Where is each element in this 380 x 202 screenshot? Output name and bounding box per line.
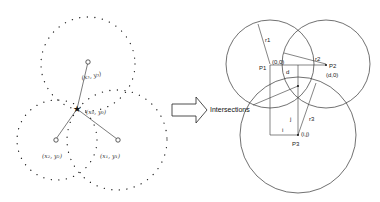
intersections-label: Intersections [210,106,250,113]
anchor-3-marker [86,60,90,64]
anchor-1-label: (x₁, y₁) [100,152,121,160]
label-p1-coord: (0,0) [272,59,284,65]
offset-i-j [270,65,298,135]
radius-r1 [258,24,270,64]
label-r2: r2 [315,56,321,62]
right-diagram: r1 r2 r3 P1 (0,0) P2 (d,0) P3 (i,j) d i … [210,20,370,193]
label-i: i [282,127,283,133]
label-j: j [289,116,291,122]
estimate-star-icon: ★ [73,104,81,114]
label-r3: r3 [309,116,315,122]
label-d: d [286,69,289,75]
vector-to-anchor-3 [77,62,88,109]
anchor-2-label: (x₂, y₂) [42,152,63,160]
anchor-2-marker [54,138,58,142]
label-p1: P1 [259,65,267,71]
trilateration-figure: ★ (x₃, y₃) (x₂, y₂) (x₁, y₁) (x₀, y₀) r1… [0,0,380,202]
label-p2: P2 [329,63,337,69]
transition-arrow [172,97,207,123]
intersection-point [297,85,299,87]
label-r1: r1 [265,37,271,43]
label-p3-coord: (i,j) [301,131,309,137]
label-p3: P3 [292,141,300,147]
label-p2-coord: (d,0) [326,72,338,78]
arrow-icon [172,97,207,123]
anchor-3-label: (x₃, y₃) [81,70,103,82]
p2-point [325,64,327,66]
left-diagram: ★ (x₃, y₃) (x₂, y₂) (x₁, y₁) (x₀, y₀) [17,17,167,190]
radius-r3 [298,83,316,135]
anchor-1-marker [116,138,120,142]
estimate-label: (x₀, y₀) [86,108,107,116]
p3-point [297,134,299,136]
